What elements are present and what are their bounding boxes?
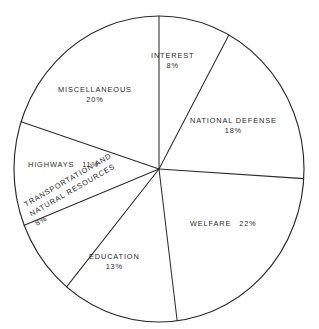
slice-label-welfare: WELFARE 22%	[190, 219, 257, 229]
slice-label-national-defense: NATIONAL DEFENSE 18%	[190, 116, 277, 136]
slice-label-highways-pct: 11%	[82, 160, 99, 169]
slice-label-education-pct: 13%	[89, 262, 140, 272]
slice-label-welfare-name: WELFARE	[190, 219, 231, 228]
slice-label-interest: INTEREST 8%	[151, 51, 194, 71]
pie-chart-figure: INTEREST 8% NATIONAL DEFENSE 18% WELFARE…	[0, 0, 319, 329]
slice-label-highways: HIGHWAYS 11%	[28, 160, 99, 170]
slice-label-miscellaneous-name: MISCELLANEOUS	[58, 85, 132, 95]
slice-label-national-defense-pct: 18%	[190, 126, 277, 136]
slice-label-interest-name: INTEREST	[151, 51, 194, 61]
slice-label-miscellaneous-pct: 20%	[58, 95, 132, 105]
slice-label-welfare-pct: 22%	[239, 219, 256, 228]
slice-label-miscellaneous: MISCELLANEOUS 20%	[58, 85, 132, 105]
slice-label-highways-name: HIGHWAYS	[28, 160, 74, 169]
slice-label-education-name: EDUCATION	[89, 252, 140, 262]
slice-label-education: EDUCATION 13%	[89, 252, 140, 272]
slice-label-national-defense-name: NATIONAL DEFENSE	[190, 116, 277, 126]
slice-label-interest-pct: 8%	[151, 61, 194, 71]
